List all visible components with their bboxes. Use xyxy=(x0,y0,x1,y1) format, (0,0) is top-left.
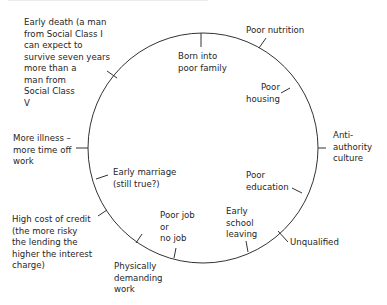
label-more-illness: More illness – more time off work xyxy=(13,133,71,168)
label-anti-authority: Anti- authority culture xyxy=(333,130,372,165)
label-unqualified: Unqualified xyxy=(290,237,339,249)
label-early-death: Early death (a man from Social Class I c… xyxy=(24,17,110,109)
label-poor-education: Poor education xyxy=(246,170,289,193)
tick-poor-job xyxy=(174,248,176,258)
tick-physical-work xyxy=(136,234,142,243)
label-early-school-leaving: Early school leaving xyxy=(226,206,257,241)
label-high-cost-credit: High cost of credit (the more risky the … xyxy=(12,214,92,272)
label-born-poor: Born into poor family xyxy=(178,51,227,74)
tick-poor-education xyxy=(292,188,302,193)
label-poor-job: Poor job or no job xyxy=(160,210,195,245)
tick-high-credit xyxy=(98,210,107,216)
tick-early-school xyxy=(246,241,248,252)
tick-early-marriage xyxy=(96,175,108,179)
tick-poor-housing xyxy=(281,88,290,93)
label-poor-nutrition: Poor nutrition xyxy=(246,25,304,37)
label-early-marriage: Early marriage (still true?) xyxy=(113,167,176,190)
label-poor-housing: Poor housing xyxy=(246,82,280,105)
tick-poor-nutrition xyxy=(259,38,266,48)
label-physically-demanding: Physically demanding work xyxy=(114,261,163,296)
tick-unqualified xyxy=(278,231,288,242)
